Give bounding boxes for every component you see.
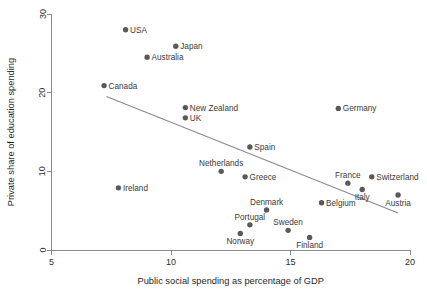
chart-canvas: 01020305101520 USAJapanAustraliaCanadaNe… — [0, 0, 427, 302]
data-point-marker — [218, 169, 223, 174]
data-point-marker — [345, 180, 350, 185]
y-axis-title: Private share of education spending — [6, 58, 16, 206]
data-point-label: Canada — [109, 82, 138, 91]
data-point-marker — [307, 235, 312, 240]
data-point-marker — [173, 44, 178, 49]
data-points: USAJapanAustraliaCanadaNew ZealandUKGerm… — [101, 26, 419, 251]
data-point-label: Australia — [152, 53, 184, 62]
data-point-label: Italy — [355, 193, 371, 202]
data-point-label: France — [335, 171, 361, 180]
data-point-marker — [395, 192, 400, 197]
x-axis-title: Public social spending as percentage of … — [137, 276, 324, 286]
data-point-label: UK — [190, 114, 202, 123]
data-point-marker — [183, 115, 188, 120]
data-point-label: Netherlands — [199, 159, 243, 168]
data-point-label: Finland — [296, 241, 323, 250]
data-point-marker — [369, 174, 374, 179]
y-tick-label: 20 — [38, 88, 48, 98]
x-tick-label: 10 — [166, 257, 176, 267]
x-tick-label: 15 — [285, 257, 295, 267]
y-tick-label: 0 — [38, 247, 48, 252]
data-point-marker — [285, 228, 290, 233]
data-point-marker — [116, 185, 121, 190]
data-point-label: Ireland — [123, 184, 148, 193]
x-tick-label: 20 — [405, 257, 415, 267]
data-point-label: Norway — [226, 237, 255, 246]
data-point-marker — [242, 174, 247, 179]
data-point-marker — [101, 83, 106, 88]
data-point-label: Austria — [385, 199, 411, 208]
data-point-label: Greece — [250, 173, 277, 182]
data-point-marker — [264, 207, 269, 212]
data-point-marker — [247, 222, 252, 227]
data-point-marker — [336, 106, 341, 111]
data-point-label: Spain — [254, 143, 275, 152]
data-point-marker — [360, 187, 365, 192]
x-tick-label: 5 — [49, 257, 54, 267]
data-point-label: New Zealand — [190, 104, 239, 113]
data-point-marker — [238, 231, 243, 236]
data-point-label: Germany — [343, 104, 378, 113]
data-point-label: Switzerland — [376, 173, 419, 182]
data-point-marker — [319, 200, 324, 205]
data-point-label: Japan — [180, 42, 203, 51]
data-point-marker — [247, 144, 252, 149]
scatter-plot-figure: 01020305101520 USAJapanAustraliaCanadaNe… — [0, 0, 427, 302]
data-point-marker — [144, 55, 149, 60]
data-point-marker — [123, 27, 128, 32]
data-point-label: Portugal — [235, 213, 266, 222]
y-tick-label: 30 — [38, 9, 48, 19]
data-point-label: USA — [130, 26, 147, 35]
data-point-label: Denmark — [250, 198, 284, 207]
axes: 01020305101520 — [38, 9, 416, 267]
data-point-label: Belgium — [326, 199, 356, 208]
data-point-marker — [183, 105, 188, 110]
data-point-label: Sweden — [273, 218, 303, 227]
y-tick-label: 10 — [38, 166, 48, 176]
